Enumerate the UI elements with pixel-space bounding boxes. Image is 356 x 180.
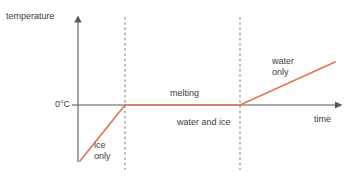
temperature-curve [80, 62, 335, 161]
heating-curve-figure: temperature time 0°C ice only melting wa… [0, 0, 356, 180]
region-label-ice-only-line1: ice [94, 140, 111, 151]
region-label-water-only-line2: only [272, 67, 294, 78]
region-label-water-only: water only [272, 56, 294, 78]
region-label-ice-only: ice only [94, 140, 111, 162]
y-axis-label: temperature [6, 11, 55, 22]
region-label-ice-only-line2: only [94, 151, 111, 162]
region-label-water-only-line1: water [272, 56, 294, 67]
y-axis-tick-label-zero: 0°C [55, 99, 70, 110]
x-axis-label: time [314, 114, 331, 125]
y-axis-arrowhead [74, 16, 81, 23]
region-label-melting: melting [170, 88, 199, 99]
x-axis-arrowhead [335, 101, 343, 108]
region-label-water-and-ice: water and ice [177, 117, 231, 128]
